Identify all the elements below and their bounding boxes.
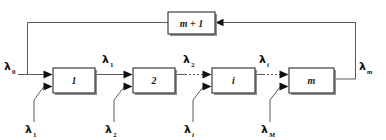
stage-label-1: 1 xyxy=(72,75,77,86)
lambda-glyph-stagem-out: λ xyxy=(359,60,366,73)
lambda-subscript-arrival-2: 2 xyxy=(113,131,117,139)
stage-label-i: i xyxy=(232,75,235,86)
stage-box-m-plus-1[interactable]: m + 1 xyxy=(168,12,217,36)
flow-label-lambda-m-out: λ m xyxy=(359,60,373,76)
lambda-glyph-arrival-i: λ xyxy=(184,123,191,136)
flow-label-arrival-M: λ M xyxy=(261,123,276,139)
lambda-subscript-arrival-M: M xyxy=(268,131,276,139)
lambda-glyph-arrival-2: λ xyxy=(105,123,112,136)
flow-label-lambda-i-out: λ i xyxy=(259,53,269,69)
arrowhead-into-stage-m-top xyxy=(280,70,289,78)
lambda-glyph-stage2-out: λ xyxy=(183,53,190,66)
arrowhead-into-stage-m-bottom xyxy=(280,82,289,90)
lambda-subscript-stage2-out: 2 xyxy=(191,61,195,69)
lambda-subscript-arrival-i: i xyxy=(192,131,194,139)
stage-box-m[interactable]: m xyxy=(289,68,336,95)
stage-label-m: m xyxy=(308,75,316,86)
lambda-subscript-stage1-out: 1 xyxy=(110,61,114,69)
flow-label-arrival-i: λ i xyxy=(184,123,194,139)
flow-label-lambda-1-out: λ 1 xyxy=(102,53,114,69)
stage-label-m-plus-1: m + 1 xyxy=(180,18,203,29)
arrowhead-into-stage-1-top xyxy=(44,70,53,78)
wire-arrival-M xyxy=(270,87,281,123)
lambda-glyph-source: λ xyxy=(4,60,11,73)
wire-arrival-1 xyxy=(34,87,44,123)
stage-box-1[interactable]: 1 xyxy=(53,68,97,95)
arrowhead-into-stage-1-bottom xyxy=(44,82,53,90)
arrowhead-into-stage-2-bottom xyxy=(124,82,133,90)
lambda-subscript-stagem-out: m xyxy=(367,68,373,76)
lambda-subscript-source: 0 xyxy=(12,68,16,76)
diagram-canvas: m + 1 1 2 i m λ 0 λ 1 xyxy=(0,0,386,140)
flow-label-arrival-2: λ 2 xyxy=(105,123,117,139)
lambda-glyph-stage1-out: λ xyxy=(102,53,109,66)
arrowhead-into-stage-2-top xyxy=(124,70,133,78)
flow-label-arrival-1: λ 1 xyxy=(25,123,37,139)
wire-arrival-i xyxy=(193,87,204,123)
arrowhead-into-stage-i-bottom xyxy=(203,82,212,90)
lambda-subscript-arrival-1: 1 xyxy=(33,131,37,139)
stage-label-2: 2 xyxy=(151,75,157,86)
lambda-glyph-arrival-M: λ xyxy=(261,123,268,136)
stage-box-i[interactable]: i xyxy=(212,68,257,95)
stage-box-2[interactable]: 2 xyxy=(133,68,177,95)
lambda-glyph-arrival-1: λ xyxy=(25,123,32,136)
lambda-glyph-stagei-out: λ xyxy=(259,53,266,66)
lambda-subscript-stagei-out: i xyxy=(267,61,269,69)
wire-arrival-2 xyxy=(114,87,125,123)
flow-label-lambda-2-out: λ 2 xyxy=(183,53,195,69)
flow-label-lambda-0: λ 0 xyxy=(4,60,16,76)
arrowhead-into-stage-i-top xyxy=(203,70,212,78)
queueing-network-diagram: m + 1 1 2 i m λ 0 λ 1 xyxy=(0,0,386,140)
